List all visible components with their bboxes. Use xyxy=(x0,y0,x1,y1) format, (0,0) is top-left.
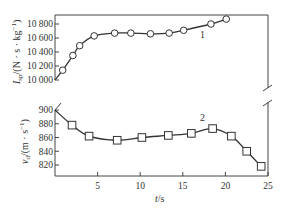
series-2-point-4 xyxy=(165,132,173,140)
lower-y-tick-label-900: 900 xyxy=(39,105,54,115)
series-2-point-7 xyxy=(228,132,236,140)
series-label-2: 2 xyxy=(200,112,205,123)
lower-panel: 510152025820840860880900 xyxy=(39,100,273,191)
lower-y-tick-label-820: 820 xyxy=(39,160,54,170)
series-1-point-4 xyxy=(111,30,118,37)
series-2-point-9 xyxy=(257,163,265,171)
x-tick-label-25: 25 xyxy=(263,181,273,191)
series-1-point-9 xyxy=(208,21,215,28)
series-1-point-5 xyxy=(128,30,135,37)
series-1-point-6 xyxy=(147,31,154,38)
upper-y-tick-label-10800: 10 800 xyxy=(27,19,53,29)
series-1-point-0 xyxy=(59,67,66,74)
upper-y-tick-label-10600: 10 600 xyxy=(27,33,53,43)
series-2-point-5 xyxy=(188,130,196,138)
lower-y-tick-label-860: 860 xyxy=(39,133,54,143)
series-2-point-8 xyxy=(243,147,251,155)
upper-y-tick-label-10200: 10 200 xyxy=(27,61,53,71)
chart: 10 00010 20010 40010 60010 800 510152025… xyxy=(0,0,285,213)
lower-y-tick-label-880: 880 xyxy=(39,119,54,129)
series-label-1: 1 xyxy=(200,29,205,40)
series-1-point-3 xyxy=(91,33,98,40)
upper-y-tick-label-10400: 10 400 xyxy=(27,47,53,57)
upper-panel: 10 00010 20010 40010 60010 800 xyxy=(27,15,272,91)
series-2-point-1 xyxy=(85,132,93,140)
series-1-point-1 xyxy=(70,52,77,59)
series-1-point-8 xyxy=(180,27,187,34)
x-axis-title: t/s xyxy=(155,193,165,204)
lower-left-break-mark xyxy=(55,103,61,110)
x-tick-label-10: 10 xyxy=(135,181,145,191)
series-1-point-7 xyxy=(166,30,173,37)
series-1-point-10 xyxy=(223,16,230,23)
series-2-point-0 xyxy=(68,121,76,129)
series-2-point-2 xyxy=(113,136,121,144)
series-2-point-3 xyxy=(138,134,146,142)
upper-y-tick-label-10000: 10 000 xyxy=(27,75,53,85)
lower-y-axis-title: vd/(m · s−1) xyxy=(18,119,32,164)
upper-y-axis-title: Isp/(N · s · kg−1) xyxy=(10,20,24,85)
series-1-point-2 xyxy=(76,42,83,49)
x-tick-label-15: 15 xyxy=(178,181,188,191)
x-tick-label-5: 5 xyxy=(95,181,100,191)
series-2-point-6 xyxy=(209,125,217,133)
x-tick-label-20: 20 xyxy=(221,181,231,191)
lower-y-tick-label-840: 840 xyxy=(39,147,54,157)
